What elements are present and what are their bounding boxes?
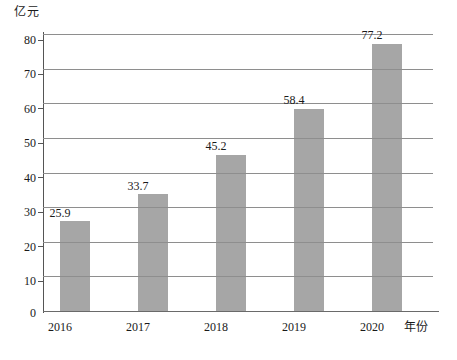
x-tick-label-2016: 2016 xyxy=(30,320,90,334)
x-tick-label-2019: 2019 xyxy=(264,320,324,334)
y-tick-mark-40 xyxy=(38,177,43,178)
bar-2020[interactable] xyxy=(372,44,402,311)
y-tick-mark-20 xyxy=(38,246,43,247)
y-tick-label-50: 50 xyxy=(8,137,36,149)
bar-value-2019: 58.4 xyxy=(264,94,324,106)
x-tick-label-2020: 2020 xyxy=(342,320,402,334)
bar-value-2018: 45.2 xyxy=(186,140,246,152)
bar-2016[interactable] xyxy=(60,221,90,311)
y-tick-mark-60 xyxy=(38,108,43,109)
plot-area xyxy=(43,34,433,311)
gridline-70 xyxy=(43,69,433,70)
y-tick-mark-70 xyxy=(38,74,43,75)
gridline-60 xyxy=(43,103,433,104)
y-tick-label-60: 60 xyxy=(8,103,36,115)
gridline-30 xyxy=(43,207,433,208)
y-tick-label-70: 70 xyxy=(8,68,36,80)
x-axis-title: 年份 xyxy=(404,320,428,334)
y-tick-label-20: 20 xyxy=(8,241,36,253)
gridline-20 xyxy=(43,242,433,243)
bar-chart: 亿元 80 70 60 50 40 30 20 10 0 25.9 33.7 4… xyxy=(0,0,457,360)
y-tick-label-10: 10 xyxy=(8,275,36,287)
bar-2019[interactable] xyxy=(294,109,324,311)
bar-value-2020: 77.2 xyxy=(342,29,402,41)
bar-value-2016: 25.9 xyxy=(30,207,90,219)
y-tick-mark-10 xyxy=(38,281,43,282)
y-tick-mark-80 xyxy=(38,40,43,41)
y-tick-mark-50 xyxy=(38,143,43,144)
y-tick-label-40: 40 xyxy=(8,172,36,184)
x-tick-label-2018: 2018 xyxy=(186,320,246,334)
bar-value-2017: 33.7 xyxy=(108,180,168,192)
gridline-50 xyxy=(43,138,433,139)
y-axis-unit-label: 亿元 xyxy=(14,5,39,19)
gridline-10 xyxy=(43,276,433,277)
x-axis-line xyxy=(43,311,439,312)
y-tick-label-0: 0 xyxy=(8,307,36,319)
y-tick-label-80: 80 xyxy=(8,34,36,46)
x-tick-label-2017: 2017 xyxy=(108,320,168,334)
gridline-40 xyxy=(43,173,433,174)
bar-2018[interactable] xyxy=(216,155,246,312)
bar-2017[interactable] xyxy=(138,194,168,311)
